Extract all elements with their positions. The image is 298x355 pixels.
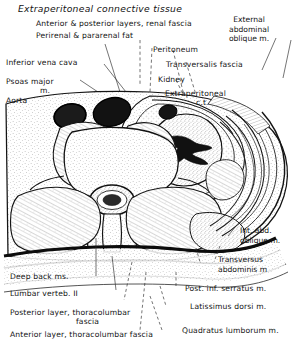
deep-back-muscle-left	[11, 187, 101, 253]
label-anterior-layer-tlf: Anterior layer, thoracolumbar fascia	[10, 330, 153, 339]
label-external-oblique-line3: oblique m.	[218, 34, 280, 44]
label-transversalis-fascia: Transversalis fascia	[166, 60, 243, 69]
label-external-oblique-line2: abdominal	[218, 25, 280, 35]
label-extraperitoneal-ct-abbr: c.t.	[196, 98, 209, 107]
label-external-oblique-line1: External	[218, 15, 280, 25]
label-extraperitoneal-ct: Extraperitoneal	[165, 89, 226, 98]
label-quadratus-lumborum: Quadratus lumborum m.	[182, 326, 279, 335]
label-internal-oblique: Int. abd. oblique m.	[240, 226, 280, 245]
label-inferior-vena-cava: Inferior vena cava	[6, 58, 78, 67]
label-renal-fascia: Anterior & posterior layers, renal fasci…	[36, 19, 192, 28]
label-lumbar-vertebra: Lumbar verteb. II	[10, 289, 78, 298]
label-peritoneum: Peritoneum	[153, 45, 198, 54]
label-aorta: Aorta	[6, 96, 27, 105]
label-deep-back-muscles: Deep back ms.	[10, 272, 69, 281]
label-posterior-layer-tlf: Posterior layer, thoracolumbar	[10, 308, 130, 317]
label-psoas-major: Psoas major	[6, 77, 54, 86]
label-transversus-line2: abdominis m	[218, 265, 267, 275]
label-external-oblique: External abdominal oblique m.	[218, 15, 280, 44]
label-transversus-abdominis: Transversus abdominis m	[218, 255, 267, 274]
label-latissimus-dorsi: Latissimus dorsi m.	[190, 302, 266, 311]
label-kidney: Kidney	[158, 75, 185, 84]
label-serratus: Post. inf. serratus m.	[185, 284, 266, 293]
label-internal-oblique-line1: Int. abd.	[240, 226, 280, 236]
label-perirenal-fat: Perirenal & pararenal fat	[36, 31, 133, 40]
anatomy-figure: Extraperitoneal connective tissue Anteri…	[0, 0, 298, 355]
label-internal-oblique-line2: oblique m.	[240, 236, 280, 246]
figure-title: Extraperitoneal connective tissue	[18, 4, 182, 13]
label-posterior-layer-tlf-line2: fascia	[76, 317, 99, 326]
label-transversus-line1: Transversus	[218, 255, 267, 265]
label-psoas-major-m: m.	[40, 86, 50, 95]
